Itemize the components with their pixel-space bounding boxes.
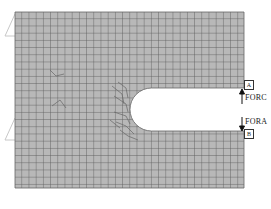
support-bottom (5, 118, 15, 140)
mesh-canvas (0, 0, 271, 209)
fem-diagram: A FORC FORA B (0, 0, 271, 209)
force-label-fora: FORA (245, 118, 267, 126)
node-b-marker: B (244, 129, 254, 139)
force-label-forc: FORC (245, 94, 267, 102)
support-top (5, 14, 15, 36)
node-a-marker: A (244, 80, 254, 90)
plate-mesh (15, 12, 244, 188)
force-arrow-up-icon (240, 89, 245, 104)
